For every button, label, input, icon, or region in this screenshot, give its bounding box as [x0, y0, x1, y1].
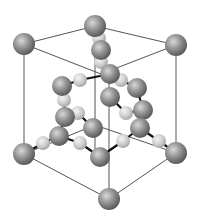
dark-atom-sphere	[165, 34, 187, 56]
dark-atoms	[13, 15, 187, 210]
dark-atom-sphere	[13, 33, 35, 55]
dark-atom-sphere	[98, 188, 120, 210]
dark-atom-sphere	[133, 100, 153, 120]
dark-atom-sphere	[127, 78, 147, 98]
crystal-structure-diagram	[0, 0, 199, 223]
cell-edge-line	[24, 44, 101, 74]
dark-atom-sphere	[49, 126, 69, 146]
light-atom-sphere	[36, 136, 50, 150]
light-atom-sphere	[116, 134, 130, 148]
dark-atom-sphere	[13, 143, 35, 165]
dark-atom-sphere	[130, 118, 150, 138]
cell-edge-line	[109, 153, 176, 199]
dark-atom-sphere	[52, 76, 72, 96]
dark-atom-sphere	[90, 147, 110, 167]
dark-atom-sphere	[84, 15, 106, 37]
light-atom-sphere	[152, 134, 166, 148]
dark-atom-sphere	[165, 142, 187, 164]
dark-atom-sphere	[100, 87, 120, 107]
light-atom-sphere	[73, 136, 87, 150]
dark-atom-sphere	[55, 107, 75, 127]
dark-atom-sphere	[91, 40, 111, 60]
dark-atom-sphere	[83, 118, 103, 138]
dark-atom-sphere	[100, 64, 120, 84]
light-atom-sphere	[119, 106, 133, 120]
light-atom-sphere	[73, 73, 87, 87]
